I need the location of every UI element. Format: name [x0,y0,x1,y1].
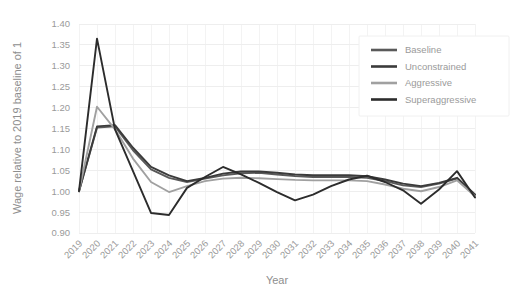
y-tick-label: 1.35 [52,39,71,50]
wage-projection-line-chart: 0.900.951.001.051.101.151.201.251.301.35… [0,0,517,296]
legend-label-aggressive: Aggressive [405,77,452,88]
y-tick-label: 1.30 [52,60,71,71]
y-tick-label: 1.40 [52,18,71,29]
legend-label-superaggressive: Superaggressive [405,94,476,105]
legend-label-baseline: Baseline [405,44,441,55]
x-axis-title: Year [266,274,289,286]
y-tick-label: 1.15 [52,123,71,134]
y-tick-label: 1.25 [52,81,71,92]
chart-canvas: 0.900.951.001.051.101.151.201.251.301.35… [0,0,517,296]
y-tick-label: 0.90 [52,227,71,238]
y-tick-label: 1.05 [52,165,71,176]
legend-label-unconstrained: Unconstrained [405,61,466,72]
chart-legend: BaselineUnconstrainedAggressiveSuperaggr… [359,36,509,116]
y-tick-label: 1.10 [52,144,71,155]
y-tick-label: 1.00 [52,186,71,197]
y-axis-title: Wage relative to 2019 baseline of 1 [11,42,23,214]
y-tick-label: 1.20 [52,102,71,113]
y-tick-label: 0.95 [52,207,71,218]
